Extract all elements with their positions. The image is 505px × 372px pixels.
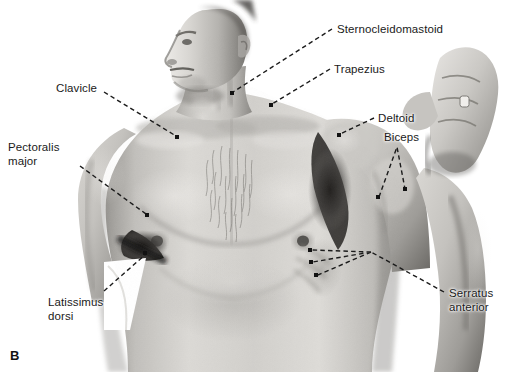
leader-dot-serratus-anterior bbox=[308, 248, 312, 252]
leader-dot-clavicle bbox=[175, 135, 179, 139]
label-trapezius: Trapezius bbox=[334, 63, 385, 77]
label-latissimus-dorsi: Latissimus dorsi bbox=[48, 296, 103, 323]
leader-dot-pectoralis-major bbox=[145, 213, 149, 217]
anatomy-figure-panel: ClaviclePectoralis majorLatissimus dorsi… bbox=[0, 0, 505, 372]
leader-dot-serratus-anterior bbox=[309, 260, 313, 264]
label-pectoralis-major: Pectoralis major bbox=[8, 141, 60, 168]
label-sternocleidomastoid: Sternocleidomastoid bbox=[337, 23, 443, 37]
finger-ring bbox=[460, 96, 469, 107]
leader-dot-trapezius bbox=[269, 103, 273, 107]
leader-dot-serratus-anterior bbox=[314, 273, 318, 277]
label-clavicle: Clavicle bbox=[56, 82, 97, 96]
leader-dot-deltoid bbox=[337, 133, 341, 137]
panel-letter: B bbox=[10, 348, 19, 363]
label-deltoid: Deltoid bbox=[378, 112, 415, 126]
label-biceps: Biceps bbox=[384, 131, 419, 145]
leader-dot-biceps bbox=[403, 187, 407, 191]
leader-dot-biceps bbox=[376, 195, 380, 199]
leader-dot-sternocleidomastoid bbox=[230, 91, 234, 95]
label-serratus-anterior: Serratus anterior bbox=[449, 287, 493, 314]
leader-dot-latissimus-dorsi bbox=[143, 251, 147, 255]
